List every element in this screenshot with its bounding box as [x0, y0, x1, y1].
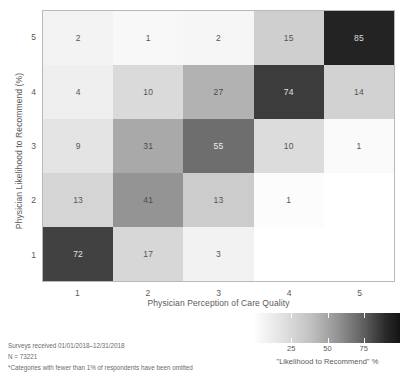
- colorbar-tick-label-25: 25: [287, 344, 295, 353]
- colorbar-legend: 255075 "Likelihood to Recommend" %: [255, 313, 400, 366]
- heatmap-cell-value: 13: [214, 196, 224, 205]
- y-axis-tick-4: 4: [6, 87, 36, 97]
- heatmap-cell-value: 4: [76, 88, 81, 97]
- colorbar-tick-mark: [364, 313, 365, 318]
- heatmap-cell-value: 3: [216, 250, 221, 259]
- heatmap-cell-value: 1: [146, 34, 151, 43]
- heatmap-cell: [324, 227, 394, 281]
- heatmap-cell-value: 41: [143, 196, 153, 205]
- heatmap-cell: 1: [113, 11, 183, 65]
- colorbar-tick-mark: [291, 338, 292, 343]
- y-axis-tick-3: 3: [6, 141, 36, 151]
- y-axis-tick-5: 5: [6, 32, 36, 42]
- heatmap-cell-value: 55: [214, 142, 224, 151]
- heatmap-cell: 15: [254, 11, 324, 65]
- heatmap-cell-value: 13: [73, 196, 83, 205]
- heatmap-cell: 72: [43, 227, 113, 281]
- heatmap-cell-value: 74: [284, 88, 294, 97]
- heatmap-cell: 2: [183, 11, 253, 65]
- heatmap-cell: 27: [183, 65, 253, 119]
- heatmap-cell-value: 10: [284, 142, 294, 151]
- heatmap-cell: 1: [324, 119, 394, 173]
- heatmap-cell: 41: [113, 173, 183, 227]
- heatmap-cell-value: 17: [143, 250, 153, 259]
- heatmap-cell-value: 1: [286, 196, 291, 205]
- colorbar-tick-mark: [291, 313, 292, 318]
- x-axis-title: Physician Perception of Care Quality: [42, 298, 395, 308]
- y-axis-tick-labels: 54321: [0, 10, 36, 282]
- footnote-line-2: N = 73221: [8, 352, 193, 363]
- colorbar-tick-mark: [328, 338, 329, 343]
- plot-area: 212158541027741493155101134113172173: [42, 10, 395, 282]
- colorbar-tick-mark: [364, 338, 365, 343]
- heatmap-cell-value: 15: [284, 34, 294, 43]
- y-axis-tick-1: 1: [6, 250, 36, 260]
- heatmap-cell: 4: [43, 65, 113, 119]
- colorbar-title: "Likelihood to Recommend" %: [255, 357, 400, 366]
- colorbar-tick-label-50: 50: [323, 344, 331, 353]
- heatmap-cell-value: 31: [143, 142, 153, 151]
- heatmap-cell: [324, 173, 394, 227]
- y-axis-tick-2: 2: [6, 195, 36, 205]
- footnote-line-1: Surveys received 01/01/2018–12/31/2018: [8, 341, 193, 352]
- heatmap-cell-value: 1: [356, 142, 361, 151]
- heatmap-cell: 1: [254, 173, 324, 227]
- heatmap-grid: 212158541027741493155101134113172173: [43, 11, 394, 281]
- colorbar-tick-label-75: 75: [360, 344, 368, 353]
- heatmap-cell-value: 27: [214, 88, 224, 97]
- heatmap-cell: 2: [43, 11, 113, 65]
- heatmap-cell-value: 2: [76, 34, 81, 43]
- heatmap-cell: 55: [183, 119, 253, 173]
- colorbar-tick-mark: [328, 313, 329, 318]
- heatmap-cell: 13: [43, 173, 113, 227]
- heatmap-cell: 9: [43, 119, 113, 173]
- heatmap-cell-value: 85: [354, 34, 364, 43]
- footnote-line-3: *Categories with fewer than 1% of respon…: [8, 363, 193, 374]
- heatmap-cell: 14: [324, 65, 394, 119]
- heatmap-cell-value: 2: [216, 34, 221, 43]
- heatmap-figure: Physician Likelihood to Recommend (%) 54…: [0, 0, 408, 384]
- heatmap-cell-value: 10: [143, 88, 153, 97]
- heatmap-cell: [254, 227, 324, 281]
- heatmap-cell-value: 72: [73, 250, 83, 259]
- heatmap-cell: 13: [183, 173, 253, 227]
- heatmap-cell: 85: [324, 11, 394, 65]
- colorbar-gradient: [255, 313, 400, 343]
- heatmap-cell: 74: [254, 65, 324, 119]
- heatmap-cell-value: 14: [354, 88, 364, 97]
- heatmap-cell: 17: [113, 227, 183, 281]
- heatmap-cell: 31: [113, 119, 183, 173]
- heatmap-cell: 3: [183, 227, 253, 281]
- heatmap-cell: 10: [254, 119, 324, 173]
- heatmap-cell-value: 9: [76, 142, 81, 151]
- heatmap-cell: 10: [113, 65, 183, 119]
- footnotes: Surveys received 01/01/2018–12/31/2018N …: [8, 341, 193, 373]
- colorbar-tick-labels: 255075: [255, 344, 400, 356]
